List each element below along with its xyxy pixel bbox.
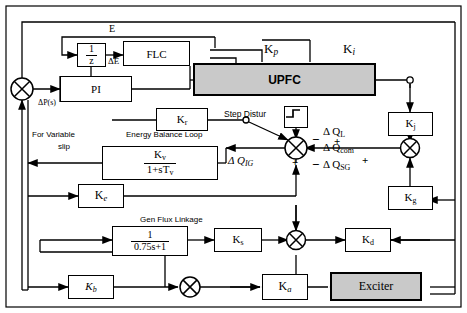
gen-flux-numerator: 1 bbox=[148, 230, 153, 241]
pi-label: PI bbox=[91, 83, 101, 95]
step-waveform-icon bbox=[285, 107, 301, 120]
sum-plus-sign-bottom: + bbox=[292, 157, 298, 168]
kb-label: Kb bbox=[85, 280, 96, 294]
unit-delay-denominator: z bbox=[86, 55, 96, 67]
pi-block[interactable]: PI bbox=[60, 76, 132, 102]
kd-block[interactable]: Kd bbox=[345, 228, 391, 252]
delta-qsg-label: Δ QSG bbox=[323, 159, 350, 172]
kp-label: Kp bbox=[264, 42, 278, 58]
delta-e-label: ΔE bbox=[108, 57, 119, 66]
delta-qig-label: Δ QIG bbox=[228, 155, 253, 168]
ka-block[interactable]: Ka bbox=[262, 274, 308, 300]
ks-label: Ks bbox=[232, 233, 243, 247]
block-diagram-canvas: 1 z FLC PI UPFC Kr Kj Kg Kv 1+sTv Ke 1 0… bbox=[0, 0, 467, 313]
exciter-block[interactable]: Exciter bbox=[330, 272, 422, 301]
e-label: E bbox=[109, 24, 115, 34]
kv-denominator: 1+sTv bbox=[144, 163, 177, 177]
exciter-label: Exciter bbox=[359, 279, 394, 294]
sum-plus-sign-qcom: + bbox=[334, 136, 340, 147]
kj-block[interactable]: Kj bbox=[388, 112, 433, 136]
flc-block[interactable]: FLC bbox=[123, 41, 190, 66]
ke-label: Ke bbox=[95, 188, 108, 203]
flc-label: FLC bbox=[146, 48, 166, 60]
energy-balance-loop-label: Energy Balance Loop bbox=[126, 131, 203, 139]
kd-label: Kd bbox=[362, 233, 374, 247]
step-disturbance-block[interactable] bbox=[284, 106, 308, 128]
sum-minus-sign-bottom: − bbox=[312, 158, 319, 171]
ke-block[interactable]: Ke bbox=[78, 184, 124, 208]
upfc-label: UPFC bbox=[268, 73, 301, 87]
for-variable-label: For Variable bbox=[32, 131, 75, 139]
gen-flux-linkage-label: Gen Flux Linkage bbox=[140, 216, 203, 224]
kb-block[interactable]: Kb bbox=[68, 275, 114, 299]
kv-numerator: Kv bbox=[154, 149, 166, 162]
sum-plus-sign-qsg: + bbox=[362, 155, 368, 166]
kj-label: Kj bbox=[405, 117, 415, 131]
delta-p-label: ΔP(s) bbox=[38, 99, 56, 107]
kr-block[interactable]: Kr bbox=[156, 108, 208, 131]
sum-minus-sign-top: − bbox=[312, 133, 319, 146]
kg-block[interactable]: Kg bbox=[388, 186, 433, 210]
kr-label: Kr bbox=[177, 113, 188, 127]
kv-lag-block[interactable]: Kv 1+sTv bbox=[102, 146, 218, 180]
gen-flux-denominator: 0.75s+1 bbox=[131, 241, 169, 253]
unit-delay-numerator: 1 bbox=[89, 44, 94, 55]
ka-label: Ka bbox=[279, 279, 292, 294]
ki-label: Ki bbox=[343, 42, 355, 58]
step-disturbance-label: Step Distur bbox=[224, 110, 266, 119]
gen-flux-linkage-block[interactable]: 1 0.75s+1 bbox=[112, 226, 188, 256]
unit-delay-block[interactable]: 1 z bbox=[77, 43, 106, 67]
ks-block[interactable]: Ks bbox=[214, 228, 262, 252]
upfc-block[interactable]: UPFC bbox=[193, 63, 376, 96]
kg-label: Kg bbox=[405, 191, 417, 205]
slip-label: slip bbox=[58, 143, 70, 151]
